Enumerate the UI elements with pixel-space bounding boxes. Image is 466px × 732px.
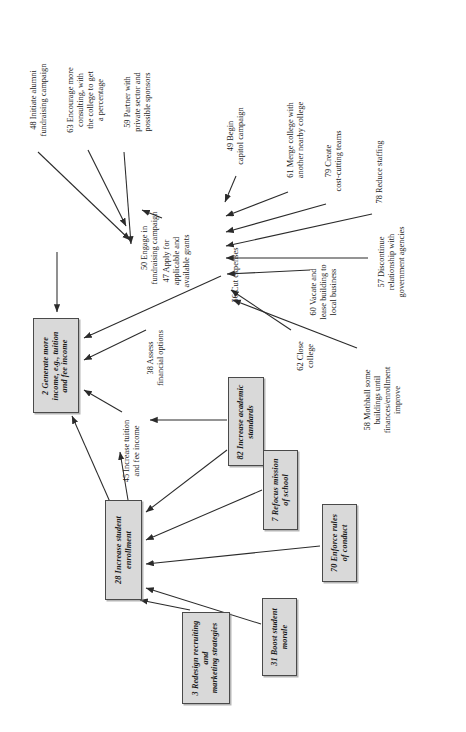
node-text-62[interactable]: 62 Closecollege — [292, 330, 320, 382]
node-text-57[interactable]: 57 Discontinuerelationship withgovernmen… — [372, 210, 412, 314]
edge-49-to-56 — [225, 176, 236, 202]
node-text-59-label: 59 Partner withprivate sector andpossibl… — [123, 72, 153, 132]
node-text-57-label: 57 Discontinuerelationship withgovernmen… — [377, 227, 407, 298]
edge-28-to-2 — [72, 416, 110, 502]
edge-63-to-50 — [88, 150, 126, 226]
edge-38-to-2 — [84, 330, 146, 360]
node-text-45[interactable]: 45 Increase tuitionand fee income — [118, 406, 146, 496]
node-text-56-label: 56 Cut expenses — [231, 248, 241, 303]
node-text-59[interactable]: 59 Partner withprivate sector andpossibl… — [118, 54, 158, 150]
edge-61-to-56 — [226, 192, 288, 216]
node-text-60-label: 60 Vacate andlease building tolocal busi… — [309, 264, 339, 319]
node-box-7-label: 7 Refocus missionof school — [271, 458, 290, 521]
node-box-31-label: 31 Boost studentmorale — [270, 608, 289, 666]
edge-45-to-2 — [84, 390, 122, 412]
node-text-61-label: 61 Merge college withanother nearby coll… — [286, 102, 306, 178]
node-box-28-label: 28 Increase studentenrollment — [114, 516, 133, 584]
node-text-62-label: 62 Closecollege — [296, 341, 316, 371]
node-box-28[interactable]: 28 Increase studentenrollment — [105, 500, 142, 600]
node-text-61[interactable]: 61 Merge college withanother nearby coll… — [282, 88, 310, 192]
edge-59-to-50 — [124, 152, 131, 244]
edge-70-to-28 — [146, 546, 320, 564]
node-text-38-label: 38 Assessfinancial options — [146, 330, 166, 386]
edge-78-to-56 — [226, 214, 372, 246]
edge-82-to-28 — [146, 450, 227, 512]
node-text-56[interactable]: 56 Cut expenses — [228, 234, 243, 316]
node-box-70[interactable]: 70 Enforce rulesof conduct — [322, 504, 357, 582]
node-text-50-label: 50 Engage infundraising campaign — [140, 212, 160, 285]
node-text-49[interactable]: 49 Begincapitol campaign — [222, 96, 250, 176]
node-text-48[interactable]: 48 Initiate alumnifundraising campaign — [22, 50, 56, 150]
node-text-47-label: 47 Apply forapplicable andavailable gran… — [162, 235, 192, 288]
node-text-49-label: 49 Begincapitol campaign — [226, 107, 246, 164]
node-text-38[interactable]: 38 Assessfinancial options — [142, 318, 170, 398]
node-text-63-label: 63 Encourage moreconsulting, withthe col… — [66, 67, 106, 133]
node-box-2[interactable]: 2 Generate moreincome, e.g., tuitionand … — [33, 318, 79, 413]
node-text-45-label: 45 Increase tuitionand fee income — [122, 420, 142, 482]
diagram-canvas: 2 Generate moreincome, e.g., tuitionand … — [0, 0, 466, 732]
node-box-3[interactable]: 3 Redesign recruitingandmarketing strate… — [182, 612, 230, 704]
node-text-78-label: 78 Reduce staffing — [375, 140, 385, 203]
node-box-31[interactable]: 31 Boost studentmorale — [262, 598, 297, 676]
node-text-79[interactable]: 79 Createcost-cutting teams — [320, 118, 348, 204]
node-text-58[interactable]: 58 Mothball somebuildings untilfinances/… — [358, 348, 408, 452]
node-text-79-label: 79 Createcost-cutting teams — [324, 130, 344, 191]
edge-7-to-28 — [146, 490, 262, 540]
edge-79-to-56 — [226, 204, 326, 232]
node-box-7[interactable]: 7 Refocus missionof school — [263, 450, 298, 530]
node-box-82-label: 82 Increase academicstandards — [236, 384, 255, 459]
node-text-63[interactable]: 63 Encourage moreconsulting, withthe col… — [62, 52, 110, 148]
node-text-58-label: 58 Mothball somebuildings untilfinances/… — [363, 367, 403, 434]
node-text-48-label: 48 Initiate alumnifundraising campaign — [29, 64, 49, 137]
node-box-82[interactable]: 82 Increase academicstandards — [228, 377, 264, 466]
node-text-78[interactable]: 78 Reduce staffing — [372, 130, 387, 214]
edge-3-to-28 — [140, 600, 190, 610]
node-box-70-label: 70 Enforce rulesof conduct — [330, 514, 349, 572]
node-text-60[interactable]: 60 Vacate andlease building tolocal busi… — [304, 250, 344, 334]
node-box-3-label: 3 Redesign recruitingandmarketing strate… — [191, 621, 220, 696]
node-box-2-label: 2 Generate moreincome, e.g., tuitionand … — [41, 331, 70, 400]
node-text-47[interactable]: 47 Apply forapplicable andavailable gran… — [158, 222, 196, 300]
edge-48-to-50 — [38, 152, 130, 240]
